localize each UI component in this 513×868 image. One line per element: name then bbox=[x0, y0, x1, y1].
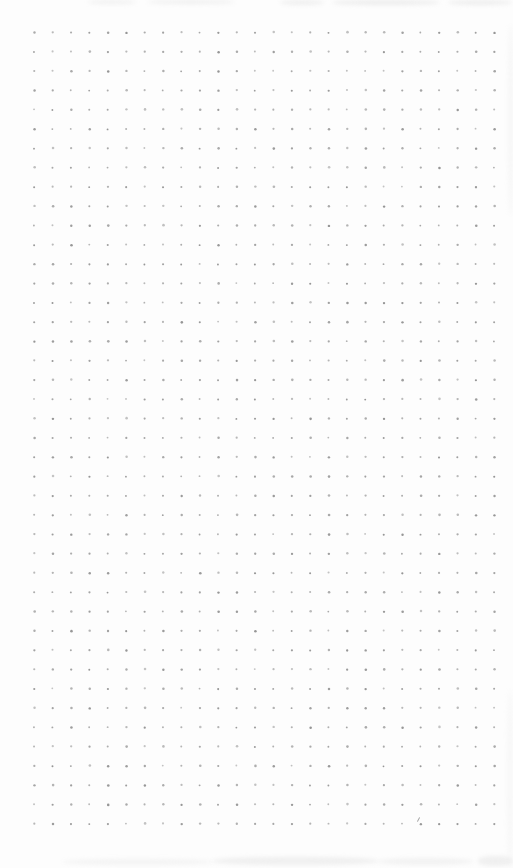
grid-dot bbox=[401, 70, 403, 72]
grid-dot bbox=[125, 495, 127, 497]
grid-dot bbox=[52, 89, 54, 91]
grid-dot bbox=[144, 803, 146, 805]
grid-dot bbox=[291, 591, 293, 593]
grid-dot bbox=[457, 687, 460, 690]
grid-dot bbox=[52, 668, 54, 670]
grid-dot bbox=[254, 533, 256, 535]
grid-dot bbox=[475, 379, 477, 381]
grid-dot bbox=[383, 823, 385, 825]
grid-dot bbox=[493, 456, 495, 458]
grid-dot bbox=[52, 70, 54, 72]
grid-dot bbox=[456, 591, 458, 593]
grid-dot bbox=[475, 360, 477, 362]
grid-dot bbox=[70, 147, 72, 149]
grid-dot bbox=[272, 244, 274, 246]
grid-dot bbox=[144, 398, 146, 400]
grid-dot bbox=[217, 630, 219, 632]
grid-dot bbox=[217, 302, 219, 304]
grid-dot bbox=[254, 495, 256, 497]
grid-dot bbox=[291, 379, 294, 382]
grid-dot bbox=[346, 745, 349, 748]
grid-dot bbox=[180, 166, 182, 168]
grid-dot bbox=[475, 166, 477, 168]
grid-dot bbox=[33, 379, 35, 381]
grid-dot bbox=[328, 707, 330, 709]
grid-dot bbox=[475, 89, 477, 91]
grid-dot bbox=[144, 591, 147, 594]
grid-dot bbox=[70, 378, 72, 380]
grid-dot bbox=[456, 360, 458, 362]
grid-dot bbox=[33, 302, 35, 304]
grid-dot bbox=[438, 302, 440, 304]
grid-dot bbox=[254, 572, 256, 574]
grid-dot bbox=[291, 707, 293, 709]
grid-dot bbox=[438, 398, 441, 401]
grid-dot bbox=[52, 340, 54, 342]
grid-dot bbox=[438, 553, 440, 555]
grid-dot bbox=[364, 610, 366, 612]
grid-dot bbox=[88, 167, 90, 169]
grid-dot bbox=[143, 630, 145, 632]
grid-dot bbox=[70, 630, 73, 633]
grid-dot bbox=[236, 687, 238, 689]
grid-dot bbox=[199, 244, 201, 246]
grid-dot bbox=[493, 185, 495, 187]
grid-dot bbox=[383, 668, 386, 671]
grid-dot bbox=[364, 688, 366, 690]
grid-dot bbox=[364, 302, 366, 304]
grid-dot bbox=[180, 31, 182, 33]
grid-dot bbox=[70, 301, 72, 303]
grid-dot bbox=[70, 437, 72, 439]
grid-dot bbox=[125, 552, 127, 554]
grid-dot bbox=[383, 726, 386, 729]
grid-dot bbox=[107, 89, 109, 91]
grid-dot bbox=[272, 784, 274, 786]
grid-dot bbox=[475, 244, 477, 246]
grid-dot bbox=[107, 746, 109, 748]
grid-dot bbox=[475, 552, 477, 554]
grid-dot bbox=[33, 437, 36, 440]
grid-dot bbox=[254, 707, 256, 709]
grid-dot bbox=[291, 90, 293, 92]
grid-dot bbox=[364, 225, 366, 227]
grid-dot bbox=[420, 765, 422, 767]
grid-dot bbox=[456, 572, 458, 574]
grid-dot bbox=[180, 205, 182, 207]
grid-dot bbox=[33, 148, 35, 150]
grid-dot bbox=[199, 398, 201, 400]
grid-dot bbox=[364, 804, 366, 806]
grid-dot bbox=[52, 823, 55, 826]
grid-dot bbox=[383, 359, 386, 362]
grid-dot bbox=[88, 90, 90, 92]
grid-dot bbox=[162, 70, 165, 73]
grid-dot bbox=[52, 514, 54, 516]
grid-dot bbox=[254, 205, 256, 207]
grid-dot bbox=[346, 707, 348, 709]
grid-dot bbox=[272, 360, 274, 362]
grid-dot bbox=[199, 494, 201, 496]
grid-dot bbox=[199, 340, 202, 343]
grid-dot bbox=[199, 707, 201, 709]
grid-dot bbox=[236, 205, 238, 207]
grid-dot bbox=[493, 437, 495, 439]
grid-dot bbox=[125, 360, 127, 362]
grid-dot bbox=[199, 437, 201, 439]
grid-dot bbox=[493, 108, 495, 110]
grid-dot bbox=[144, 533, 146, 535]
grid-dot bbox=[291, 263, 294, 266]
grid-dot bbox=[438, 186, 440, 188]
grid-dot bbox=[51, 128, 53, 130]
grid-dot bbox=[456, 649, 458, 651]
grid-dot bbox=[364, 746, 366, 748]
grid-dot bbox=[125, 572, 127, 574]
grid-dot bbox=[291, 668, 293, 670]
grid-dot bbox=[180, 437, 182, 439]
grid-dot bbox=[125, 417, 128, 420]
grid-dot bbox=[309, 263, 311, 265]
grid-dot bbox=[199, 475, 201, 477]
grid-dot bbox=[235, 495, 237, 497]
grid-dot bbox=[364, 476, 366, 478]
grid-dot bbox=[456, 745, 458, 747]
grid-dot bbox=[493, 89, 496, 92]
grid-dot bbox=[272, 282, 274, 284]
